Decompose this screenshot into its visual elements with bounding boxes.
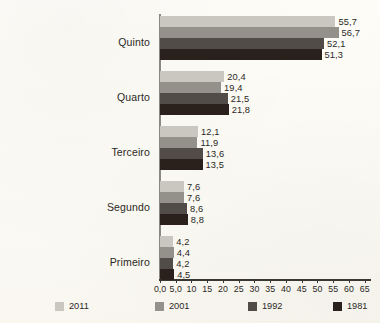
bar-row: 19,4 <box>160 82 380 93</box>
value-label: 8,6 <box>187 204 203 214</box>
chart-page: Quinto55,756,752,151,3Quarto20,419,421,5… <box>0 0 380 323</box>
bar-1992-quarto[interactable] <box>160 93 228 104</box>
bar-row: 8,6 <box>160 203 380 214</box>
bar-stack: 12,111,913,613,5 <box>160 126 380 178</box>
value-label: 4,4 <box>174 248 190 258</box>
bar-1992-segundo[interactable] <box>160 203 187 214</box>
legend-item-1992[interactable]: 1992 <box>248 301 282 311</box>
value-label: 51,3 <box>322 50 344 60</box>
value-label: 8,8 <box>188 215 204 225</box>
value-label: 4,2 <box>173 259 189 269</box>
axis-tick <box>176 279 177 283</box>
legend-item-1981[interactable]: 1981 <box>333 301 367 311</box>
value-label: 4,5 <box>174 270 190 280</box>
bar-2011-segundo[interactable] <box>160 181 184 192</box>
axis-tick-label: 40 <box>281 284 291 294</box>
bar-1992-quinto[interactable] <box>160 38 324 49</box>
category-label-primeiro: Primeiro <box>0 256 150 268</box>
bar-1981-terceiro[interactable] <box>160 159 203 170</box>
bar-2011-quinto[interactable] <box>160 16 335 27</box>
axis-tick-label: 50 <box>313 284 323 294</box>
legend-swatch-icon <box>155 302 164 311</box>
axis-tick-label: 60 <box>344 284 354 294</box>
bar-1981-quarto[interactable] <box>160 104 229 115</box>
value-label: 55,7 <box>335 17 357 27</box>
bar-row: 12,1 <box>160 126 380 137</box>
value-label: 21,5 <box>228 94 250 104</box>
bar-row: 4,2 <box>160 258 380 269</box>
bar-1981-primeiro[interactable] <box>160 269 174 280</box>
bar-stack: 7,67,68,68,8 <box>160 181 380 233</box>
bar-2011-terceiro[interactable] <box>160 126 198 137</box>
bar-group: Segundo7,67,68,68,8 <box>0 181 380 233</box>
legend-item-2001[interactable]: 2001 <box>155 301 189 311</box>
bar-row: 56,7 <box>160 27 380 38</box>
value-label: 7,6 <box>184 193 200 203</box>
axis-tick-label: 5,0 <box>170 284 182 294</box>
axis-tick <box>223 279 224 283</box>
bar-row: 21,8 <box>160 104 380 115</box>
bar-2001-quinto[interactable] <box>160 27 339 38</box>
value-label: 56,7 <box>339 28 361 38</box>
axis-tick-label: 15 <box>202 284 212 294</box>
bar-1981-quinto[interactable] <box>160 49 322 60</box>
bar-group: Quarto20,419,421,521,8 <box>0 71 380 123</box>
axis-tick <box>317 279 318 283</box>
bar-2011-quarto[interactable] <box>160 71 224 82</box>
bar-2001-primeiro[interactable] <box>160 247 174 258</box>
bar-2011-primeiro[interactable] <box>160 236 173 247</box>
chart-plot-area: Quinto55,756,752,151,3Quarto20,419,421,5… <box>0 0 380 323</box>
legend-label: 1981 <box>347 301 367 311</box>
axis-tick-label: 45 <box>297 284 307 294</box>
axis-tick <box>349 279 350 283</box>
axis-tick <box>365 279 366 283</box>
axis-tick-label: 55 <box>328 284 338 294</box>
axis-tick <box>254 279 255 283</box>
axis-tick <box>302 279 303 283</box>
value-label: 11,9 <box>197 138 218 148</box>
bar-row: 7,6 <box>160 181 380 192</box>
bar-2001-segundo[interactable] <box>160 192 184 203</box>
value-label: 7,6 <box>184 182 200 192</box>
legend-swatch-icon <box>333 302 342 311</box>
axis-tick-label: 0,0 <box>154 284 166 294</box>
axis-tick-label: 65 <box>360 284 370 294</box>
bar-row: 20,4 <box>160 71 380 82</box>
bar-row: 7,6 <box>160 192 380 203</box>
axis-tick <box>333 279 334 283</box>
category-label-segundo: Segundo <box>0 201 150 213</box>
legend-label: 2011 <box>69 301 89 311</box>
value-label: 21,8 <box>229 105 251 115</box>
axis-tick <box>207 279 208 283</box>
bar-stack: 20,419,421,521,8 <box>160 71 380 123</box>
legend-swatch-icon <box>248 302 257 311</box>
legend-item-2011[interactable]: 2011 <box>55 301 89 311</box>
legend-label: 1992 <box>262 301 282 311</box>
axis-tick-label: 30 <box>250 284 260 294</box>
value-label: 52,1 <box>324 39 346 49</box>
bar-1992-primeiro[interactable] <box>160 258 173 269</box>
legend-label: 2001 <box>169 301 189 311</box>
category-label-terceiro: Terceiro <box>0 146 150 158</box>
bar-row: 13,5 <box>160 159 380 170</box>
bar-2001-quarto[interactable] <box>160 82 221 93</box>
bar-stack: 55,756,752,151,3 <box>160 16 380 68</box>
bar-row: 13,6 <box>160 148 380 159</box>
bar-row: 21,5 <box>160 93 380 104</box>
axis-tick-label: 25 <box>234 284 244 294</box>
axis-tick-label: 10 <box>187 284 197 294</box>
bar-1992-terceiro[interactable] <box>160 148 203 159</box>
legend-swatch-icon <box>55 302 64 311</box>
value-label: 4,2 <box>173 237 189 247</box>
bar-1981-segundo[interactable] <box>160 214 188 225</box>
axis-tick <box>286 279 287 283</box>
axis-tick-label: 20 <box>218 284 228 294</box>
axis-tick <box>160 279 161 283</box>
bar-group: Terceiro12,111,913,613,5 <box>0 126 380 178</box>
axis-tick <box>191 279 192 283</box>
bar-group: Quinto55,756,752,151,3 <box>0 16 380 68</box>
axis-tick <box>239 279 240 283</box>
bar-row: 51,3 <box>160 49 380 60</box>
bar-row: 11,9 <box>160 137 380 148</box>
bar-2001-terceiro[interactable] <box>160 137 197 148</box>
